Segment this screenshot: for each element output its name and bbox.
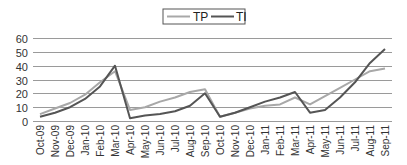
x-tick-label: Jul-11 (350, 125, 361, 152)
x-tick-label: Aug-11 (365, 125, 376, 157)
x-axis: Oct-09Nov-09Dec-09Jan-10Feb-10Mar-10Apr-… (35, 125, 391, 159)
line-chart: TP TI 0102030405060 Oct-09Nov-09Dec-09Ja… (0, 0, 407, 165)
x-tick-label: Aug-10 (185, 125, 196, 158)
x-tick-label: Mar-10 (110, 125, 121, 157)
x-tick-label: Apr-10 (125, 125, 136, 155)
x-tick-label: Dec-09 (65, 125, 76, 158)
x-tick-label: Jun-10 (155, 125, 166, 156)
x-tick-label: May-10 (140, 125, 151, 159)
x-tick-label: Sep-10 (200, 125, 211, 158)
gridlines (33, 39, 392, 122)
x-tick-label: Apr-11 (305, 125, 316, 155)
y-tick-label: 20 (16, 88, 28, 100)
legend-label-ti: TI (236, 10, 247, 24)
x-tick-label: Dec-10 (245, 125, 256, 158)
y-tick-label: 0 (22, 116, 28, 128)
x-tick-label: Oct-10 (215, 125, 226, 155)
x-tick-label: Nov-09 (50, 125, 61, 158)
x-tick-label: Mar-11 (290, 125, 301, 156)
legend-label-tp: TP (193, 10, 208, 24)
legend: TP TI (163, 9, 247, 24)
x-tick-label: Feb-10 (95, 125, 106, 157)
x-tick-label: Feb-11 (275, 125, 286, 156)
x-tick-label: Sep-11 (380, 125, 391, 157)
x-tick-label: Jan-10 (80, 125, 91, 156)
x-tick-label: Nov-10 (230, 125, 241, 158)
y-tick-label: 60 (16, 33, 28, 45)
chart-canvas: TP TI 0102030405060 Oct-09Nov-09Dec-09Ja… (0, 0, 407, 165)
x-tick-label: Jul-10 (170, 125, 181, 153)
y-axis: 0102030405060 (16, 33, 28, 128)
x-tick-label: Jun-11 (335, 125, 346, 155)
x-tick-label: May-11 (320, 125, 331, 158)
y-tick-label: 40 (16, 61, 28, 73)
y-tick-label: 30 (16, 75, 28, 87)
x-tick-label: Jan-11 (260, 125, 271, 155)
y-tick-label: 10 (16, 102, 28, 114)
x-tick-label: Oct-09 (35, 125, 46, 155)
y-tick-label: 50 (16, 47, 28, 59)
